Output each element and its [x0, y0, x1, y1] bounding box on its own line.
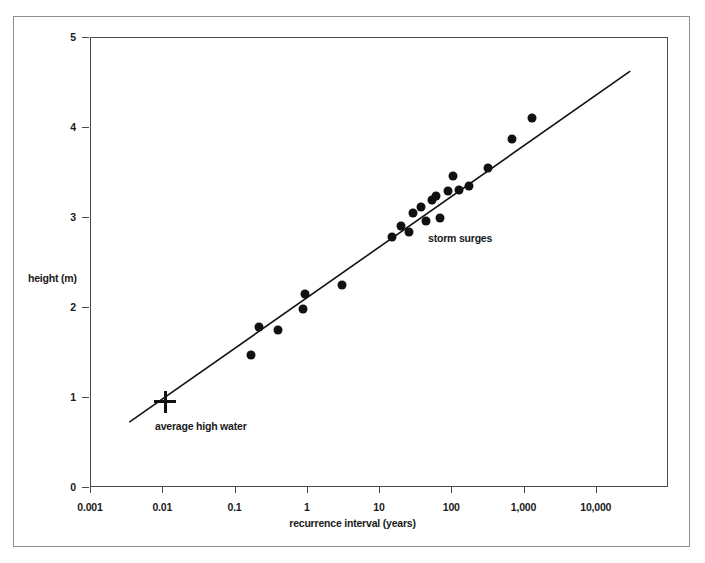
x-axis-tick-label: 1,000 — [511, 501, 536, 513]
x-axis-tick-label: 0.01 — [152, 501, 172, 513]
data-point — [247, 350, 256, 359]
x-axis-tick-label: 100 — [443, 501, 460, 513]
data-point — [416, 203, 425, 212]
data-point — [448, 171, 457, 180]
data-point — [299, 304, 308, 313]
data-point — [338, 281, 347, 290]
x-axis-tick — [596, 487, 597, 493]
y-axis-tick-label: 5 — [62, 31, 76, 43]
y-axis-tick — [82, 307, 89, 308]
x-axis-tick — [90, 487, 91, 493]
y-axis-tick-label: 4 — [62, 121, 76, 133]
x-axis-tick-label: 10,000 — [580, 501, 611, 513]
data-point — [255, 322, 264, 331]
y-axis-tick-label: 2 — [62, 301, 76, 313]
data-point — [527, 114, 536, 123]
data-point — [508, 134, 517, 143]
y-axis-tick-label: 0 — [62, 481, 76, 493]
y-axis-tick — [82, 127, 89, 128]
data-point — [404, 228, 413, 237]
y-axis-tick — [82, 37, 89, 38]
x-axis-tick — [524, 487, 525, 493]
y-axis-title: height (m) — [28, 272, 77, 284]
y-axis-tick-label: 1 — [62, 391, 76, 403]
data-point — [301, 289, 310, 298]
data-point — [464, 181, 473, 190]
cross-vertical-bar — [164, 391, 167, 413]
x-axis-tick — [235, 487, 236, 493]
average-high-water-annotation: average high water — [155, 420, 247, 432]
x-axis-tick-label: 1 — [304, 501, 310, 513]
y-axis-tick — [82, 487, 89, 488]
page-root: 0.0010.010.11101001,00010,000 012345 sto… — [0, 0, 705, 563]
data-point — [483, 163, 492, 172]
data-point — [273, 325, 282, 334]
x-axis-title: recurrence interval (years) — [289, 517, 416, 529]
y-axis-tick — [82, 217, 89, 218]
data-point — [436, 213, 445, 222]
x-axis-tick-label: 0.1 — [228, 501, 242, 513]
y-axis-tick-label: 3 — [62, 211, 76, 223]
x-axis-tick-label: 10 — [373, 501, 384, 513]
data-point — [432, 192, 441, 201]
x-axis-tick — [379, 487, 380, 493]
data-point — [443, 186, 452, 195]
x-axis-tick — [451, 487, 452, 493]
data-point — [455, 186, 464, 195]
x-axis-tick — [162, 487, 163, 493]
data-point — [396, 222, 405, 231]
x-axis-tick-label: 0.001 — [77, 501, 102, 513]
data-point — [422, 216, 431, 225]
scatter-chart: 0.0010.010.11101001,00010,000 012345 sto… — [0, 0, 705, 563]
storm-surges-annotation: storm surges — [428, 232, 492, 244]
y-axis-tick — [82, 397, 89, 398]
data-point — [387, 232, 396, 241]
x-axis-tick — [307, 487, 308, 493]
